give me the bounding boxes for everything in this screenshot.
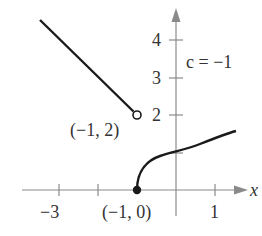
x-axis-label: x xyxy=(249,180,258,200)
y-tick-label-2: 2 xyxy=(152,105,161,125)
x-axis-arrow-icon xyxy=(234,186,248,195)
right-piece-curve xyxy=(137,131,236,190)
x-tick-label-neg3: −3 xyxy=(40,202,59,222)
closed-endpoint-marker xyxy=(133,186,141,194)
y-tick-label-4: 4 xyxy=(152,30,161,50)
left-piece-line xyxy=(40,20,134,112)
x-tick-label-1: 1 xyxy=(210,202,219,222)
y-tick-label-3: 3 xyxy=(152,68,161,88)
piecewise-graph: 4 3 2 c = −1 (−1, 2) (−1, 0) −3 1 x xyxy=(0,0,262,236)
annotation-c-value: c = −1 xyxy=(186,52,232,72)
open-endpoint-marker xyxy=(133,111,141,119)
y-axis xyxy=(169,8,183,216)
open-point-label: (−1, 2) xyxy=(70,120,119,141)
closed-point-label: (−1, 0) xyxy=(102,202,151,223)
y-axis-arrow-icon xyxy=(172,8,181,22)
